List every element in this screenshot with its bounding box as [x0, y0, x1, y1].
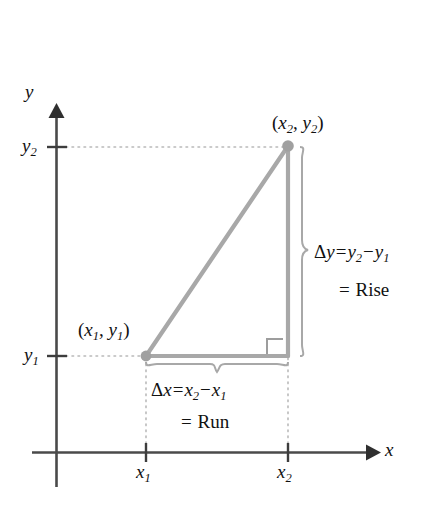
run-var: x	[163, 379, 171, 400]
rise-word-equals: =	[338, 279, 351, 300]
y-axis-arrowhead	[49, 103, 65, 118]
rise-minus: −	[362, 241, 375, 262]
tick-label-y1-sub: 1	[32, 354, 38, 368]
rise-word-text: Rise	[355, 279, 389, 300]
run-b-base: x	[212, 379, 220, 400]
point-label-1: (x1, y1)	[78, 320, 130, 342]
projection-lines	[60, 147, 288, 449]
tick-label-x2-sub: 2	[285, 471, 291, 485]
run-label: = Run	[180, 412, 229, 431]
point-marker-1	[141, 351, 152, 362]
p2-comma: ,	[293, 112, 303, 133]
slope-triangle	[141, 140, 294, 361]
tick-label-y2: y2	[22, 136, 37, 158]
run-equation: Δx=x2−x1	[151, 380, 227, 402]
run-delta: Δ	[151, 379, 163, 400]
x-axis-label: x	[385, 440, 393, 459]
rise-b-sub: 1	[383, 251, 389, 265]
p2-close-paren: )	[317, 112, 323, 133]
p2-x-base: x	[278, 112, 286, 133]
tick-label-x1: x1	[136, 462, 151, 484]
p1-close-paren: )	[123, 319, 129, 340]
run-word-text: Run	[197, 411, 229, 432]
tick-label-y1: y1	[24, 345, 39, 367]
tick-marks	[47, 147, 288, 462]
tick-label-y2-sub: 2	[30, 145, 36, 159]
rise-a-base: y	[347, 241, 355, 262]
rise-label: = Rise	[338, 280, 389, 299]
p2-y-base: y	[303, 112, 311, 133]
y-axis-label: y	[25, 82, 33, 101]
triangle-hypotenuse	[146, 146, 288, 356]
tick-label-x1-sub: 1	[144, 471, 150, 485]
run-equals: =	[172, 379, 185, 400]
x-axis-arrowhead	[366, 445, 381, 461]
run-word-equals: =	[180, 411, 193, 432]
point-marker-2	[282, 140, 294, 152]
run-minus: −	[199, 379, 212, 400]
tick-label-x2: x2	[277, 462, 292, 484]
rise-brace	[300, 147, 308, 356]
rise-b-base: y	[375, 241, 383, 262]
p1-comma: ,	[99, 319, 109, 340]
rise-var: y	[326, 241, 334, 262]
right-angle-marker	[267, 339, 283, 355]
rise-equals: =	[335, 241, 348, 262]
p1-x-base: x	[84, 319, 92, 340]
slope-triangle-figure: y x y2 y1 x1 x2 (x2, y2) (x1, y1) Δy=y2−…	[0, 0, 444, 509]
p1-y-base: y	[109, 319, 117, 340]
point-label-2: (x2, y2)	[272, 113, 324, 135]
run-b-sub: 1	[220, 389, 226, 403]
run-brace	[146, 362, 288, 372]
rise-delta: Δ	[314, 241, 326, 262]
rise-equation: Δy=y2−y1	[314, 242, 390, 264]
run-a-base: x	[184, 379, 192, 400]
